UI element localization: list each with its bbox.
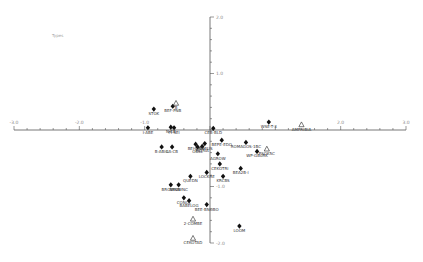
- point-label: KRCBS: [216, 178, 230, 183]
- point-label: BEF-PNB: [164, 108, 181, 113]
- data-point: AMPHIBIA: [292, 122, 312, 132]
- point-label: BEE-BNOBO: [195, 207, 219, 212]
- x-tick-label: -2.0: [75, 120, 84, 125]
- scatter-plot: -3.0-2.0-1.02.03.02.01.0-1.0-2.0 STOKBEF…: [0, 0, 423, 262]
- x-tick-label: -3.0: [10, 120, 19, 125]
- point-label: ROMAGOS-1BC: [231, 144, 261, 149]
- y-tick-label: 2.0: [216, 15, 223, 20]
- data-point: CEKOTRI: [211, 161, 228, 171]
- point-label: AGROW: [210, 156, 226, 161]
- data-point: STOK: [148, 106, 159, 116]
- data-point: CEB-BLD: [205, 126, 222, 136]
- x-tick-label: -1.0: [140, 120, 149, 125]
- point-label: BROWNC: [169, 187, 188, 192]
- point-label: LOOM: [233, 228, 245, 233]
- point-label: BEA2B-I: [233, 170, 249, 175]
- point-label: B: [175, 105, 178, 110]
- y-tick-label: -1.0: [216, 184, 225, 189]
- data-point: ROMAGOS-1BC: [231, 140, 261, 150]
- data-point: BEF-PNB: [164, 104, 181, 114]
- data-point: BEPE-EDO: [212, 138, 232, 148]
- point-label: CEB-BLD: [205, 130, 222, 135]
- y-tick-label: 1.0: [216, 71, 223, 76]
- point-label: BEPE-EDO: [212, 142, 232, 147]
- point-label: LA-CB: [166, 149, 178, 154]
- data-point: BEA2B-I: [233, 166, 249, 176]
- point-label: LOCKRE: [199, 174, 215, 179]
- data-point: WSE-T-3: [261, 119, 278, 129]
- data-point: LA-CB: [166, 144, 178, 154]
- point-label: I-ABE: [143, 130, 154, 135]
- data-point: KRCBS: [216, 174, 230, 184]
- data-point: 2-COMBE: [184, 216, 203, 226]
- point-label: STOK: [148, 111, 159, 116]
- y-tick-label: -2.0: [216, 241, 225, 246]
- data-point: QUEDN: [183, 174, 198, 184]
- x-tick-label: 2.0: [337, 120, 344, 125]
- point-label: PSOK5C: [259, 151, 275, 156]
- point-label: CEKOTRI: [211, 166, 228, 171]
- point-label: QUEDN: [183, 178, 198, 183]
- data-point: AGROW: [210, 151, 226, 161]
- data-point: LOCKRE: [199, 170, 215, 180]
- point-label: WSE-T-3: [261, 124, 278, 129]
- data-point: CEKOTAD: [184, 235, 203, 245]
- x-tick-label: 3.0: [402, 120, 409, 125]
- data-point: I-ABE: [143, 125, 154, 135]
- data-point: PSOK5C: [259, 146, 275, 156]
- point-label: 2-COMBE: [184, 221, 203, 226]
- point-label: CEKOTAD: [184, 240, 203, 245]
- data-point: LOOM: [233, 223, 245, 233]
- point-label: FI-SEI: [168, 130, 179, 135]
- point-label: AMPHIBIA: [292, 127, 312, 132]
- data-points: STOKBEF-PNBBI-ABEN-EBFI-SEICEB-BLDWSE-T-…: [143, 100, 312, 245]
- data-point: BROWNC: [169, 182, 188, 192]
